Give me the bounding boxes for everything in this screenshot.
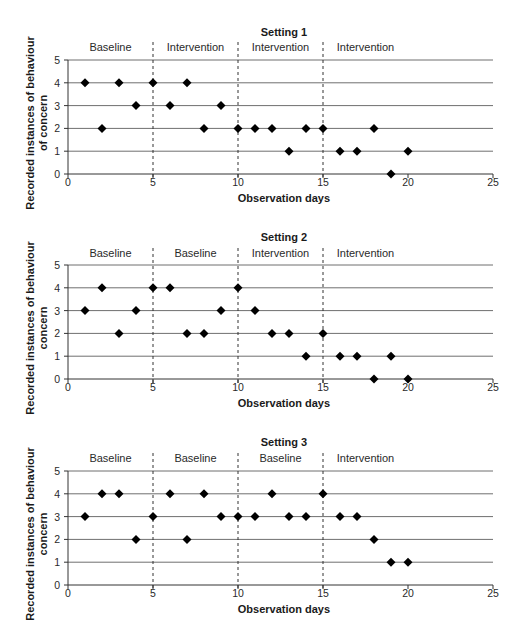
data-point-marker <box>404 147 413 156</box>
data-point-marker <box>115 329 124 338</box>
data-point-marker <box>353 512 362 521</box>
data-point-marker <box>234 283 243 292</box>
x-tick-label: 0 <box>65 176 71 188</box>
data-point-marker <box>387 558 396 567</box>
y-tick-label: 2 <box>54 122 60 134</box>
x-tick-label: 5 <box>150 587 156 599</box>
data-point-marker <box>234 124 243 133</box>
data-point-marker <box>166 489 175 498</box>
data-point-marker <box>115 489 124 498</box>
data-point-marker <box>387 170 396 179</box>
y-tick-label: 4 <box>54 77 60 89</box>
phase-label: Baseline <box>174 452 216 464</box>
data-point-marker <box>183 329 192 338</box>
data-point-marker <box>353 352 362 361</box>
data-point-marker <box>285 512 294 521</box>
y-axis-title: Recorded instances of behaviourof concer… <box>24 35 49 209</box>
data-point-marker <box>217 306 226 315</box>
data-point-marker <box>285 147 294 156</box>
data-point-marker <box>319 329 328 338</box>
data-point-marker <box>200 124 209 133</box>
phase-label: Intervention <box>337 452 394 464</box>
data-point-marker <box>115 78 124 87</box>
y-tick-label: 4 <box>54 488 60 500</box>
x-tick-label: 25 <box>487 176 499 188</box>
data-point-marker <box>285 329 294 338</box>
data-point-marker <box>200 489 209 498</box>
data-point-marker <box>183 535 192 544</box>
x-tick-label: 25 <box>487 381 499 393</box>
data-point-marker <box>268 489 277 498</box>
y-axis-title: Recorded instances of behaviourconcern <box>24 446 49 620</box>
data-point-marker <box>149 512 158 521</box>
data-point-marker <box>81 78 90 87</box>
y-tick-label: 3 <box>54 305 60 317</box>
data-point-marker <box>81 512 90 521</box>
data-point-marker <box>302 512 311 521</box>
x-tick-label: 20 <box>402 587 414 599</box>
y-tick-label: 1 <box>54 145 60 157</box>
data-point-marker <box>370 535 379 544</box>
phase-label: Baseline <box>89 41 131 53</box>
x-axis-title: Observation days <box>238 603 330 615</box>
data-point-marker <box>353 147 362 156</box>
phase-label: Intervention <box>252 247 309 259</box>
phase-label: Intervention <box>337 247 394 259</box>
y-tick-label: 2 <box>54 327 60 339</box>
chart-setting-3: Setting 3BaselineBaselineBaselineInterve… <box>24 436 499 621</box>
y-tick-label: 5 <box>54 465 60 477</box>
y-tick-label: 2 <box>54 533 60 545</box>
data-point-marker <box>132 535 141 544</box>
x-axis-title: Observation days <box>238 192 330 204</box>
data-point-marker <box>251 306 260 315</box>
chart-setting-2: Setting 2BaselineBaselineInterventionInt… <box>24 231 499 415</box>
data-point-marker <box>166 101 175 110</box>
data-point-marker <box>166 283 175 292</box>
y-tick-label: 0 <box>54 373 60 385</box>
data-point-marker <box>132 101 141 110</box>
data-point-marker <box>302 352 311 361</box>
data-point-marker <box>251 124 260 133</box>
y-tick-label: 4 <box>54 282 60 294</box>
phase-label: Baseline <box>89 452 131 464</box>
data-point-marker <box>98 124 107 133</box>
y-tick-label: 1 <box>54 556 60 568</box>
data-point-marker <box>251 512 260 521</box>
data-point-marker <box>302 124 311 133</box>
data-point-marker <box>149 78 158 87</box>
data-point-marker <box>319 489 328 498</box>
data-point-marker <box>132 306 141 315</box>
data-point-marker <box>336 352 345 361</box>
y-tick-label: 3 <box>54 511 60 523</box>
chart-title: Setting 1 <box>261 26 307 38</box>
phase-label: Intervention <box>252 41 309 53</box>
x-tick-label: 15 <box>317 176 329 188</box>
data-point-marker <box>234 512 243 521</box>
phase-label: Intervention <box>337 41 394 53</box>
data-point-marker <box>336 147 345 156</box>
data-point-marker <box>370 124 379 133</box>
phase-label: Intervention <box>167 41 224 53</box>
data-point-marker <box>404 558 413 567</box>
data-point-marker <box>370 375 379 384</box>
x-tick-label: 10 <box>232 587 244 599</box>
x-axis-title: Observation days <box>238 397 330 409</box>
data-point-marker <box>336 512 345 521</box>
y-tick-label: 0 <box>54 168 60 180</box>
figure-setting-charts: Setting 1BaselineInterventionInterventio… <box>0 0 526 639</box>
x-tick-label: 15 <box>317 587 329 599</box>
data-point-marker <box>149 283 158 292</box>
data-point-marker <box>217 101 226 110</box>
x-tick-label: 0 <box>65 587 71 599</box>
phase-label: Baseline <box>259 452 301 464</box>
chart-title: Setting 2 <box>261 231 307 243</box>
y-tick-label: 3 <box>54 100 60 112</box>
y-tick-label: 1 <box>54 350 60 362</box>
data-point-marker <box>319 124 328 133</box>
x-tick-label: 10 <box>232 176 244 188</box>
y-axis-title: Recorded instances of behaviourconcern <box>24 240 49 414</box>
data-point-marker <box>81 306 90 315</box>
data-point-marker <box>217 512 226 521</box>
y-tick-label: 5 <box>54 54 60 66</box>
data-point-marker <box>98 283 107 292</box>
